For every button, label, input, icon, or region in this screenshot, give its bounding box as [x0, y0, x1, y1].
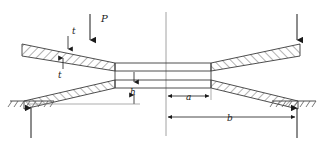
center-plate [115, 63, 211, 88]
dimension-label-t-lower: t [58, 70, 62, 80]
beam-lower-left [24, 80, 115, 109]
dimension-label-a: a [186, 92, 191, 102]
figure-canvas: P t t h a [0, 0, 322, 144]
dimension-label-t: t [72, 26, 76, 36]
beam-upper-left [22, 44, 115, 71]
applied-load-left-arrow: P [90, 13, 108, 40]
dimension-label-h: h [130, 87, 136, 97]
load-label-p: P [100, 13, 108, 24]
dimension-outer-radius-b: b [168, 113, 295, 123]
beam-upper-right [211, 44, 300, 71]
belleville-spring-diagram: P t t h a [0, 0, 322, 144]
dimension-inner-radius-a: a [168, 88, 211, 102]
dimension-label-b: b [227, 113, 233, 123]
beam-lower-right [211, 80, 298, 109]
